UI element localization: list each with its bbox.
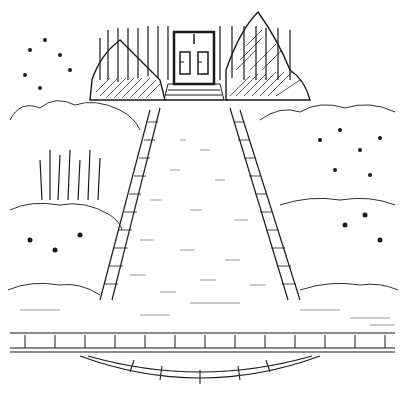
- garden-path-illustration: [0, 0, 403, 403]
- illustration-canvas: [0, 0, 403, 403]
